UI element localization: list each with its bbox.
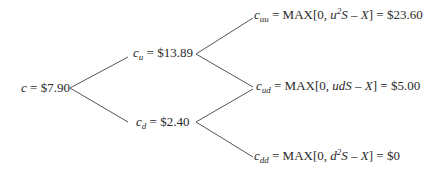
uu-x: X xyxy=(361,7,369,22)
root-value: $7.90 xyxy=(41,80,70,95)
up-eq: = xyxy=(143,45,157,60)
dd-value: $0 xyxy=(387,148,400,163)
down-eq: = xyxy=(146,114,160,129)
node-dd: cdd = MAX[0, d2S – X] = $0 xyxy=(254,148,400,164)
ud-value: $5.00 xyxy=(391,78,420,93)
ud-x: X xyxy=(365,78,373,93)
ud-f1: udS xyxy=(332,78,352,93)
node-down: cd = $2.40 xyxy=(136,114,189,130)
node-uu: cuu = MAX[0, u2S – X] = $23.60 xyxy=(254,7,423,23)
dd-close: ] = xyxy=(369,148,387,163)
ud-close: ] = xyxy=(373,78,391,93)
uu-value: $23.60 xyxy=(387,7,423,22)
node-ud: cud = MAX[0, udS – X] = $5.00 xyxy=(256,78,420,94)
node-up: cu = $13.89 xyxy=(133,45,193,61)
uu-eq: = MAX[0, xyxy=(269,7,331,22)
branch-root-up xyxy=(70,57,128,88)
uu-minus: – xyxy=(348,7,361,22)
down-value: $2.40 xyxy=(160,114,189,129)
dd-eq: = MAX[0, xyxy=(269,148,331,163)
branch-root-down xyxy=(70,88,128,122)
uu-sub: uu xyxy=(260,14,269,24)
dd-minus: – xyxy=(348,148,361,163)
ud-minus: – xyxy=(352,78,365,93)
uu-close: ] = xyxy=(369,7,387,22)
ud-sub: ud xyxy=(262,85,271,95)
ud-eq: = MAX[0, xyxy=(271,78,333,93)
branch-d-dd xyxy=(196,122,253,157)
dd-sub: dd xyxy=(260,155,269,165)
dd-x: X xyxy=(361,148,369,163)
branch-u-ud xyxy=(196,54,253,87)
root-eq: = xyxy=(27,80,41,95)
branch-d-ud xyxy=(196,89,253,122)
up-value: $13.89 xyxy=(157,45,193,60)
node-root: c = $7.90 xyxy=(21,80,70,96)
branch-u-uu xyxy=(196,18,253,54)
